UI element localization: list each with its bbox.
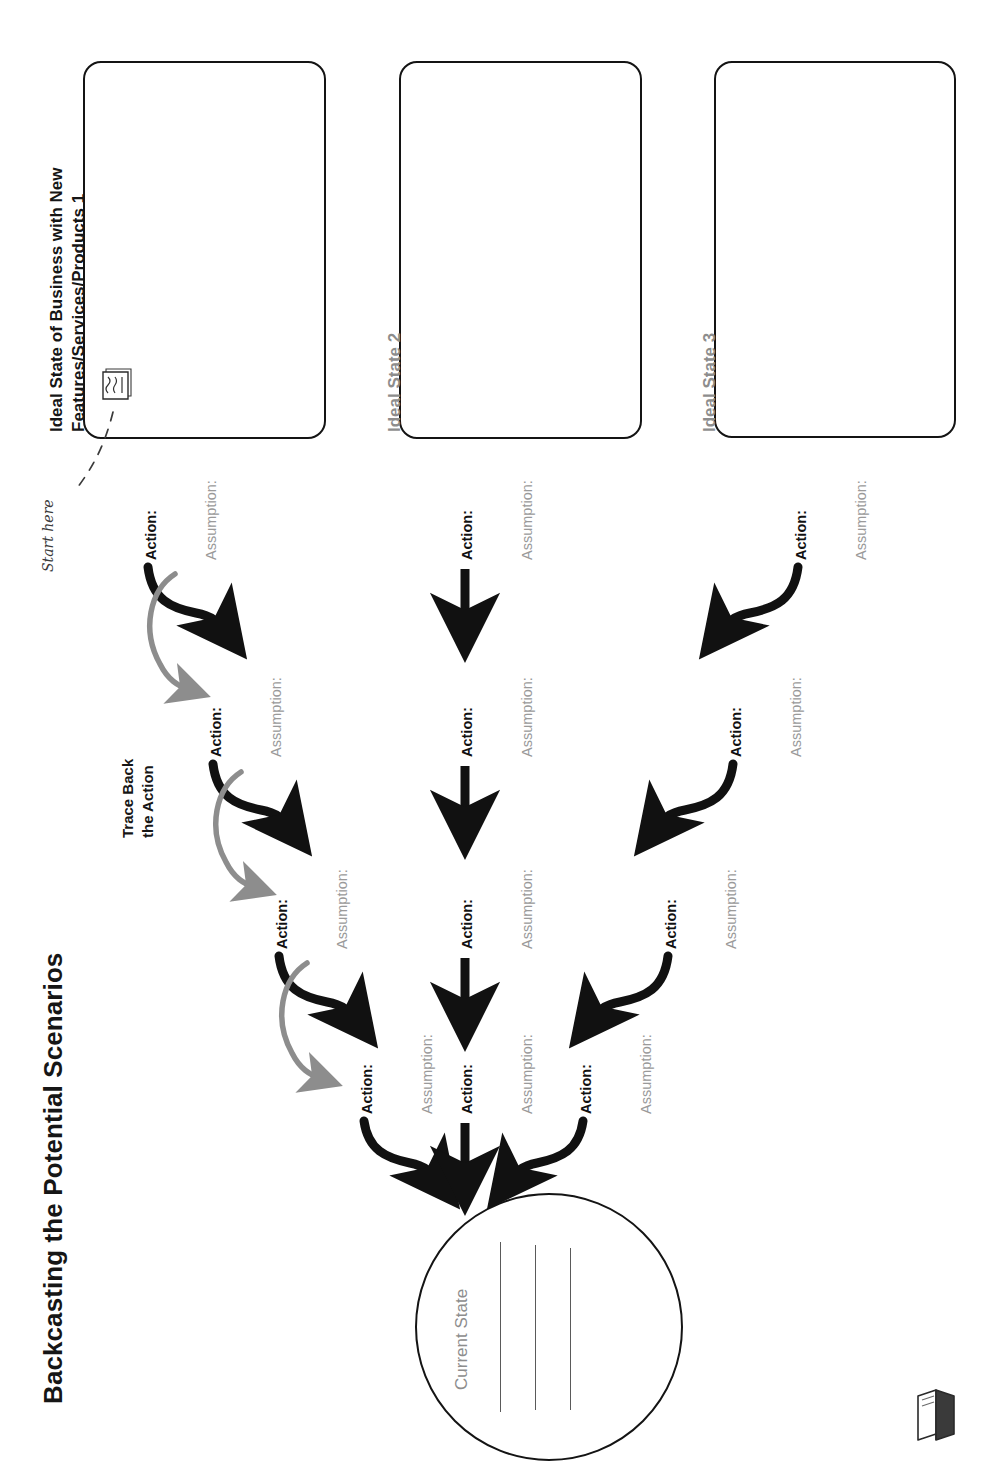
worksheet-canvas: Backcasting the Potential Scenarios Idea… xyxy=(0,0,990,1465)
trace-arrow-1 xyxy=(150,574,190,690)
book-logo xyxy=(908,1382,966,1450)
flow-arrow-c3r3 xyxy=(591,956,668,1020)
arrow-layer xyxy=(0,0,990,1465)
flow-arrow-c3r2 xyxy=(656,764,733,828)
flow-arrow-c3r1 xyxy=(721,567,798,631)
flow-arrow-c1r2 xyxy=(213,764,290,828)
flow-arrow-c1r1 xyxy=(148,567,225,631)
trace-arrow-3 xyxy=(282,963,322,1079)
trace-arrow-2 xyxy=(216,772,256,888)
flow-arrow-c1r4 xyxy=(364,1121,438,1181)
start-here-connector xyxy=(74,412,113,492)
flow-arrow-c3r4 xyxy=(509,1121,583,1181)
flow-arrow-c1r3 xyxy=(279,956,356,1020)
